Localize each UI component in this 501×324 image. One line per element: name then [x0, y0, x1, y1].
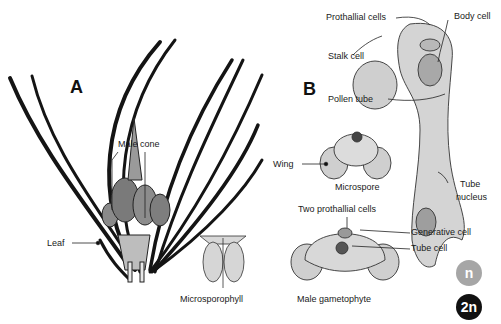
legend-diploid-badge: 2n [456, 294, 482, 320]
label-tube-nucleus-line2: nucleus [456, 193, 487, 202]
panel-label-b: B [303, 80, 316, 98]
male-gametophyte-drawing [291, 228, 399, 280]
label-tube-nucleus-line1: Tube [460, 180, 480, 189]
label-tube-cell: Tube cell [411, 244, 447, 253]
label-pollen-tube: Pollen tube [328, 95, 373, 104]
label-male-gametophyte: Male gametophyte [297, 295, 371, 304]
label-leaf: Leaf [47, 239, 65, 248]
label-generative-cell: Generative cell [411, 228, 471, 237]
label-body-cell: Body cell [454, 12, 491, 21]
label-microspore: Microspore [335, 183, 380, 192]
label-wing: Wing [273, 160, 294, 169]
label-microsporophyll: Microsporophyll [180, 295, 243, 304]
microspore-drawing [320, 132, 391, 179]
label-prothallial-cells: Prothallial cells [326, 13, 386, 22]
label-two-prothallial-cells: Two prothallial cells [298, 205, 376, 214]
microsporophyll-drawing [200, 236, 246, 288]
legend-diploid-text: 2n [461, 299, 477, 315]
panel-label-a: A [70, 78, 83, 96]
diagram-artwork [0, 0, 501, 324]
legend-haploid-badge: n [456, 260, 482, 286]
label-male-cone: Male cone [118, 140, 160, 149]
label-stalk-cell: Stalk cell [328, 52, 364, 61]
legend-haploid-text: n [465, 265, 474, 281]
